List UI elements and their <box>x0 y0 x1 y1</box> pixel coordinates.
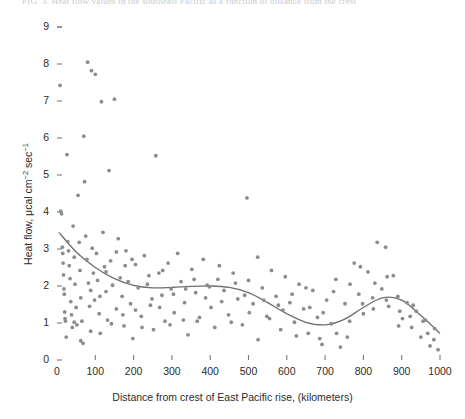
data-point <box>243 293 247 297</box>
data-point <box>166 261 170 265</box>
data-point <box>61 261 65 265</box>
data-point <box>73 282 77 286</box>
data-point <box>385 275 389 279</box>
x-axis-tick-label-700: 700 <box>305 365 345 377</box>
data-point <box>126 280 130 284</box>
data-point <box>89 329 93 333</box>
data-point <box>268 317 272 321</box>
data-point <box>192 277 196 281</box>
data-point <box>234 281 238 285</box>
data-point <box>371 307 375 311</box>
data-points-layer <box>58 60 440 351</box>
data-point <box>176 252 180 256</box>
data-point <box>247 279 251 283</box>
y-axis-title-exponent-1: −2 <box>21 171 30 180</box>
x-axis-title: Distance from crest of East Pacific rise… <box>0 391 465 403</box>
x-axis-ticks <box>95 355 401 360</box>
data-point <box>348 282 352 286</box>
data-point <box>281 308 285 312</box>
data-point <box>190 267 194 271</box>
scatter-plot-canvas <box>0 0 465 419</box>
data-point <box>343 302 347 306</box>
data-point <box>290 292 294 296</box>
data-point <box>104 290 108 294</box>
data-point <box>256 255 260 259</box>
data-point <box>64 335 68 339</box>
y-axis-tick-label-5: 5 <box>33 168 49 180</box>
data-point <box>172 311 176 315</box>
data-point <box>410 326 414 330</box>
data-point <box>345 335 349 339</box>
data-point <box>334 277 338 281</box>
data-point <box>97 312 101 316</box>
data-point <box>157 271 161 275</box>
data-point <box>74 306 78 310</box>
axis-lines <box>57 27 440 360</box>
data-point <box>71 224 75 228</box>
data-point <box>136 286 140 290</box>
data-point <box>213 326 217 330</box>
x-axis-tick-label-100: 100 <box>75 365 115 377</box>
data-point <box>384 245 388 249</box>
data-point <box>89 289 93 293</box>
data-point <box>163 319 167 323</box>
data-point <box>66 240 70 244</box>
data-point <box>421 319 425 323</box>
data-point <box>325 298 329 302</box>
data-point <box>231 271 235 275</box>
data-point <box>60 245 64 249</box>
data-point <box>387 304 391 308</box>
data-point <box>121 313 125 317</box>
data-point <box>411 303 415 307</box>
data-point <box>124 249 128 253</box>
x-axis-tick-label-900: 900 <box>382 365 422 377</box>
data-point <box>158 306 162 310</box>
trend-curve <box>59 232 440 333</box>
data-point <box>84 234 88 238</box>
data-point <box>222 289 226 293</box>
data-point <box>98 294 102 298</box>
data-point <box>111 283 115 287</box>
data-point <box>216 277 220 281</box>
data-point <box>161 269 165 273</box>
x-axis-tick-label-500: 500 <box>229 365 269 377</box>
data-point <box>373 281 377 285</box>
data-point <box>201 257 205 261</box>
y-axis-tick-label-0: 0 <box>33 353 49 365</box>
data-point <box>294 334 298 338</box>
data-point <box>98 331 102 335</box>
data-point <box>308 306 312 310</box>
data-point <box>391 274 395 278</box>
data-point <box>247 311 251 315</box>
data-point <box>297 282 301 286</box>
data-point <box>208 285 212 289</box>
x-axis-tick-label-800: 800 <box>343 365 383 377</box>
data-point <box>130 257 134 261</box>
data-point <box>109 259 113 263</box>
data-point <box>131 337 135 341</box>
data-point <box>63 310 67 314</box>
data-point <box>139 314 143 318</box>
data-point <box>251 302 255 306</box>
y-axis-title-exponent-2: −1 <box>21 143 30 152</box>
data-point <box>101 230 105 234</box>
data-point <box>87 281 91 285</box>
y-axis-tick-label-1: 1 <box>33 316 49 328</box>
data-point <box>91 271 95 275</box>
data-point <box>227 313 231 317</box>
data-point <box>262 298 266 302</box>
data-point <box>64 319 68 323</box>
data-point <box>114 250 118 254</box>
data-point <box>145 282 149 286</box>
data-point <box>62 287 66 291</box>
data-point <box>401 317 405 321</box>
data-point <box>270 269 274 273</box>
data-point <box>172 292 176 296</box>
data-point <box>168 323 172 327</box>
data-point <box>398 309 402 313</box>
data-point <box>283 275 287 279</box>
data-point <box>194 291 198 295</box>
data-point <box>65 153 69 157</box>
data-point <box>72 320 76 324</box>
data-point <box>183 301 187 305</box>
